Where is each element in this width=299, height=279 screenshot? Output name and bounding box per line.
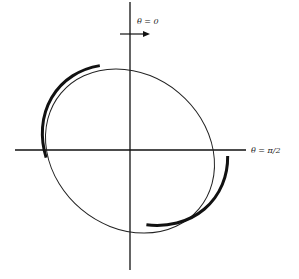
rotation-arrow-icon bbox=[120, 31, 150, 37]
polar-ellipse-diagram: θ = 0 θ = π/2 bbox=[0, 0, 299, 279]
label-theta-half-pi: θ = π/2 bbox=[251, 146, 281, 155]
ellipse-thick-right-segment bbox=[146, 144, 240, 247]
ellipse-thick-left-segment bbox=[19, 55, 113, 158]
label-theta-zero: θ = 0 bbox=[137, 17, 159, 26]
